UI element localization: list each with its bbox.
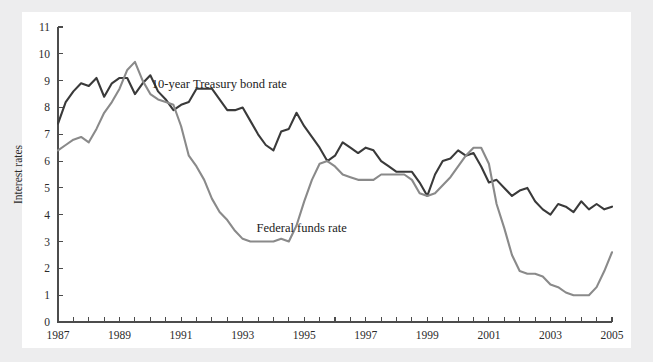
series-line-fedfunds — [58, 62, 612, 295]
y-tick-label: 7 — [44, 128, 50, 140]
y-axis-title: Interest rates — [12, 144, 24, 204]
line-chart-plot: 0123456789101119871989199119931995199719… — [0, 0, 653, 362]
x-tick-label: 1995 — [293, 329, 316, 341]
fedfunds-label: Federal funds rate — [257, 221, 348, 235]
x-tick-label: 1999 — [416, 329, 439, 341]
x-tick-label: 1997 — [354, 329, 377, 341]
y-tick-label: 0 — [44, 316, 50, 328]
y-tick-label: 2 — [44, 262, 50, 274]
x-tick-label: 1991 — [170, 329, 193, 341]
y-tick-label: 4 — [44, 209, 50, 221]
series-line-treasury — [58, 75, 612, 214]
y-tick-label: 11 — [39, 21, 50, 33]
y-tick-label: 1 — [44, 289, 50, 301]
y-tick-label: 5 — [44, 182, 50, 194]
y-tick-label: 3 — [44, 236, 50, 248]
x-tick-label: 1989 — [108, 329, 131, 341]
chart-figure: 0123456789101119871989199119931995199719… — [0, 0, 653, 362]
x-tick-label: 1993 — [231, 329, 254, 341]
y-tick-label: 8 — [44, 101, 50, 113]
x-tick-label: 2003 — [539, 329, 562, 341]
x-tick-label: 2001 — [477, 329, 500, 341]
axis-lines — [58, 27, 612, 322]
x-tick-label: 1987 — [47, 329, 70, 341]
y-tick-label: 9 — [44, 75, 50, 87]
y-tick-label: 10 — [39, 48, 51, 60]
treasury-label: 10-year Treasury bond rate — [152, 77, 287, 91]
y-tick-label: 6 — [44, 155, 50, 167]
x-tick-label: 2005 — [601, 329, 624, 341]
